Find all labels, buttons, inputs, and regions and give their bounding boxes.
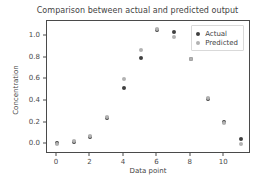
data-point: [88, 134, 92, 138]
x-axis-tick-label: 8: [188, 158, 192, 166]
data-point: [172, 35, 176, 39]
y-axis-tick-group: 0.00.20.40.60.81.0: [0, 20, 46, 153]
data-point: [189, 57, 193, 61]
x-axis-tick-mark: [156, 153, 157, 156]
y-axis-tick-label: 1.0: [29, 31, 40, 39]
x-axis-tick-mark: [56, 153, 57, 156]
x-axis-tick-mark: [223, 153, 224, 156]
data-point: [122, 86, 126, 90]
legend-marker-icon: [196, 32, 200, 36]
data-point: [139, 56, 143, 60]
x-axis-tick-mark: [189, 153, 190, 156]
data-point: [55, 142, 59, 146]
x-axis-tick-mark: [122, 153, 123, 156]
legend-item-actual: Actual: [196, 29, 238, 38]
x-axis-tick-label: 6: [154, 158, 158, 166]
legend-item-predicted: Predicted: [196, 38, 238, 47]
y-axis-tick-label: 0.2: [29, 118, 40, 126]
y-axis-tick-label: 0.6: [29, 74, 40, 82]
data-point: [239, 142, 243, 146]
legend-marker-icon: [196, 41, 200, 45]
data-point: [105, 115, 109, 119]
data-point: [206, 96, 210, 100]
y-axis-tick-label: 0.4: [29, 96, 40, 104]
y-axis-tick-label: 0.0: [29, 139, 40, 147]
legend: Actual Predicted: [191, 25, 244, 51]
data-point: [155, 27, 159, 31]
figure-canvas: Comparison between actual and predicted …: [0, 0, 275, 194]
y-axis-label: Concentration: [12, 45, 20, 135]
data-point: [222, 121, 226, 125]
x-axis-tick-label: 2: [87, 158, 91, 166]
y-axis-tick-label: 0.8: [29, 53, 40, 61]
x-axis-tick-mark: [89, 153, 90, 156]
x-axis-tick-group: 0246810: [46, 153, 250, 167]
plot-area: Actual Predicted: [46, 20, 250, 153]
chart-title: Comparison between actual and predicted …: [0, 6, 275, 15]
x-axis-tick-label: 4: [121, 158, 125, 166]
legend-label: Actual: [205, 30, 227, 38]
data-point: [122, 77, 126, 81]
data-point: [72, 139, 76, 143]
data-point: [172, 30, 176, 34]
legend-label: Predicted: [205, 39, 238, 47]
x-axis-tick-label: 10: [219, 158, 228, 166]
x-axis-label: Data point: [46, 167, 250, 175]
x-axis-tick-label: 0: [54, 158, 58, 166]
data-point: [139, 48, 143, 52]
data-point: [239, 137, 243, 141]
